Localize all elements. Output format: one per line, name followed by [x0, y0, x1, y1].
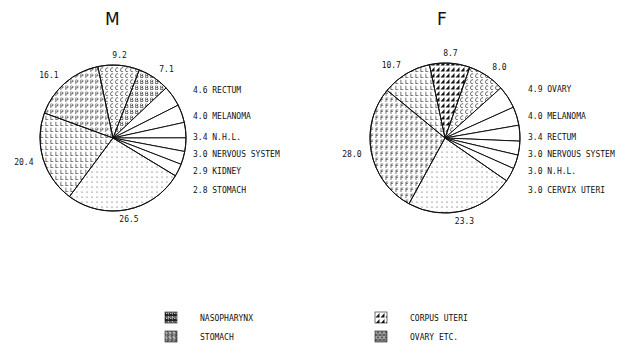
slice-value-label: 9.2 — [112, 51, 127, 60]
slice-value-label: 8.0 — [492, 63, 507, 72]
pie-chart-m: 9.27.14.6 RECTUM4.0 MELANOMA3.4 N.H.L.3.… — [14, 51, 280, 224]
pie-title-f: F — [437, 9, 447, 29]
legend-swatch — [375, 331, 387, 342]
slice-label: 4.0 MELANOMA — [193, 112, 251, 121]
slice-value-label: 26.5 — [119, 215, 138, 224]
legend-label: NASOPHARYNX — [200, 314, 253, 323]
slice-value-label: 7.1 — [159, 65, 174, 74]
slice-value-label: 23.3 — [455, 217, 474, 226]
slice-label: 3.4 N.H.L. — [193, 133, 241, 142]
slice-value-label: 28.0 — [342, 150, 361, 159]
slice-label: 4.9 OVARY — [528, 85, 572, 94]
legend-swatch — [165, 312, 177, 323]
pie-title-m: M — [105, 9, 120, 29]
slice-label: 2.8 STOMACH — [193, 186, 246, 195]
legend-swatch — [375, 312, 387, 323]
slice-label: 2.9 KIDNEY — [193, 167, 241, 176]
legend-swatch — [165, 331, 177, 342]
slice-label: 3.4 RECTUM — [528, 133, 576, 142]
chart-canvas: C B P L F M 9.27.14.6 RECTUM4.0 MELANOMA… — [0, 0, 635, 354]
slice-value-label: 20.4 — [14, 158, 33, 167]
slice-label: 3.0 NERVOUS SYSTEM — [193, 150, 280, 159]
legend: NASOPHARYNXSTOMACHCORPUS UTERIOVARY ETC. — [165, 312, 468, 342]
slice-value-label: 8.7 — [443, 49, 458, 58]
slice-value-label: 16.1 — [39, 71, 58, 80]
pie-chart-f: 8.78.04.9 OVARY4.0 MELANOMA3.4 RECTUM3.0… — [342, 49, 615, 226]
slice-label: 3.0 NERVOUS SYSTEM — [528, 150, 615, 159]
slice-label: 4.6 RECTUM — [193, 86, 241, 95]
slice-label: 3.0 N.H.L. — [528, 167, 576, 176]
slice-label: 3.0 CERVIX UTERI — [528, 186, 605, 195]
slice-value-label: 10.7 — [382, 61, 401, 70]
legend-label: CORPUS UTERI — [410, 314, 468, 323]
legend-label: STOMACH — [200, 333, 234, 342]
legend-label: OVARY ETC. — [410, 333, 458, 342]
slice-label: 4.0 MELANOMA — [528, 112, 586, 121]
